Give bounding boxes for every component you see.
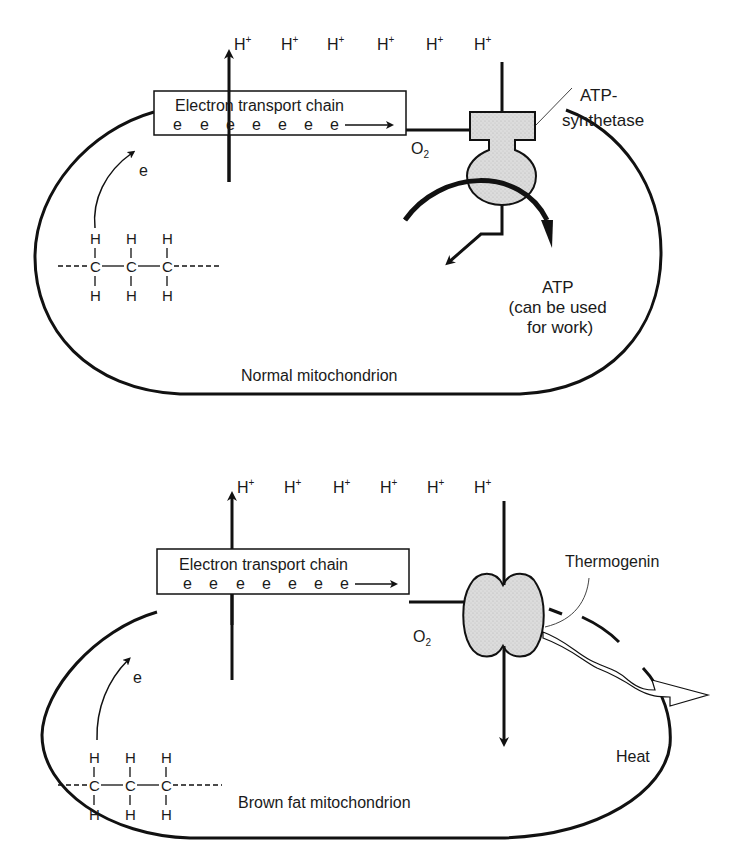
electron-donor-arrow xyxy=(95,153,132,228)
electron-label: e xyxy=(133,669,142,686)
svg-text:C: C xyxy=(161,777,172,794)
svg-text:H+: H+ xyxy=(426,34,444,53)
panel-caption-normal: Normal mitochondrion xyxy=(241,367,398,384)
thermogenin xyxy=(463,501,544,742)
svg-text:e: e xyxy=(330,116,339,133)
svg-text:H: H xyxy=(90,230,101,247)
proton-labels: H+ H+ H+ H+ H+ H+ xyxy=(237,477,492,496)
etc-label: Electron transport chain xyxy=(179,556,348,573)
atp-synthetase xyxy=(405,62,553,262)
svg-text:e: e xyxy=(262,575,271,592)
svg-text:H+: H+ xyxy=(284,477,302,496)
svg-text:C: C xyxy=(126,258,137,275)
svg-text:H+: H+ xyxy=(474,477,492,496)
svg-text:H: H xyxy=(126,287,137,304)
etc-label: Electron transport chain xyxy=(175,97,344,114)
oxygen-label: O2 xyxy=(413,628,431,648)
svg-text:H+: H+ xyxy=(427,477,445,496)
svg-text:H: H xyxy=(89,806,100,823)
svg-text:H: H xyxy=(162,287,173,304)
svg-text:C: C xyxy=(90,258,101,275)
svg-text:e: e xyxy=(340,575,349,592)
svg-text:H: H xyxy=(125,806,136,823)
svg-text:C: C xyxy=(162,258,173,275)
mitochondrion-membrane xyxy=(35,110,661,394)
svg-text:H: H xyxy=(161,806,172,823)
svg-text:H+: H+ xyxy=(234,34,252,53)
svg-text:e: e xyxy=(200,116,209,133)
atp-synthetase-label: ATP- synthetase xyxy=(562,86,644,130)
svg-text:H: H xyxy=(162,230,173,247)
svg-text:H+: H+ xyxy=(281,34,299,53)
svg-text:H+: H+ xyxy=(333,477,351,496)
heat-arrow xyxy=(543,632,708,706)
svg-text:H: H xyxy=(125,749,136,766)
svg-text:C: C xyxy=(125,777,136,794)
hydrocarbon-molecule: H H H C C C H H H xyxy=(58,749,222,823)
svg-text:e: e xyxy=(236,575,245,592)
thermogenin-label: Thermogenin xyxy=(565,553,659,570)
panel-brown-fat-mitochondrion: H+ H+ H+ H+ H+ H+ Electron transport cha… xyxy=(42,477,708,838)
atp-product-label: ATP (can be used for work) xyxy=(508,278,611,337)
thermogenin-leader xyxy=(545,578,589,627)
svg-text:e: e xyxy=(173,116,182,133)
hydrocarbon-molecule: H H H C C C H H H xyxy=(58,230,222,304)
svg-text:H+: H+ xyxy=(237,477,255,496)
svg-text:e: e xyxy=(314,575,323,592)
electron-transport-chain: Electron transport chain e e e e e e e xyxy=(157,549,409,594)
electron-transport-chain: Electron transport chain e e e e e e e xyxy=(154,91,406,135)
electron-donor-arrow xyxy=(97,660,128,740)
svg-text:e: e xyxy=(226,116,235,133)
electron-label: e xyxy=(139,162,148,179)
panel-normal-mitochondrion: H+ H+ H+ H+ H+ H+ Electron transport cha… xyxy=(35,34,661,394)
heat-label: Heat xyxy=(616,748,650,765)
svg-text:e: e xyxy=(304,116,313,133)
svg-text:H+: H+ xyxy=(377,34,395,53)
svg-text:C: C xyxy=(89,777,100,794)
svg-text:H+: H+ xyxy=(327,34,345,53)
svg-text:e: e xyxy=(183,575,192,592)
svg-text:e: e xyxy=(288,575,297,592)
svg-text:e: e xyxy=(209,575,218,592)
svg-text:H: H xyxy=(89,749,100,766)
svg-text:H+: H+ xyxy=(380,477,398,496)
svg-text:e: e xyxy=(278,116,287,133)
svg-text:H: H xyxy=(126,230,137,247)
proton-labels: H+ H+ H+ H+ H+ H+ xyxy=(234,34,492,53)
panel-caption-brown-fat: Brown fat mitochondrion xyxy=(238,794,411,811)
svg-text:H: H xyxy=(90,287,101,304)
oxygen-label: O2 xyxy=(411,140,429,160)
svg-text:H: H xyxy=(161,749,172,766)
svg-text:H+: H+ xyxy=(474,34,492,53)
svg-text:e: e xyxy=(252,116,261,133)
mitochondria-diagram: H+ H+ H+ H+ H+ H+ Electron transport cha… xyxy=(0,0,742,843)
